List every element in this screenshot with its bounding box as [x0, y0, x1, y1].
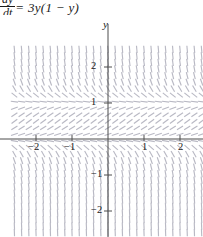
derivative-fraction: dy dt [0, 0, 15, 15]
field-segment [115, 59, 116, 66]
field-segment [28, 52, 29, 59]
field-segment [184, 113, 190, 117]
field-segment [91, 113, 97, 117]
field-segment [170, 93, 176, 97]
field-segment [86, 59, 87, 66]
field-segment [198, 101, 203, 102]
field-segment [100, 157, 102, 164]
field-segment [115, 65, 116, 72]
field-segment [129, 183, 130, 190]
field-segment [187, 196, 188, 203]
field-segment [158, 164, 160, 171]
field-segment [76, 126, 82, 130]
field-segment [14, 59, 15, 66]
field-segment [164, 151, 168, 157]
field-segment [194, 190, 195, 197]
field-segment [201, 177, 202, 184]
field-segment [186, 72, 188, 79]
field-segment [180, 46, 181, 53]
field-segment [21, 170, 22, 177]
field-segment [148, 119, 154, 123]
field-segment [144, 52, 145, 59]
field-segment [187, 59, 188, 66]
field-segment [76, 140, 83, 141]
field-segment [84, 145, 89, 150]
field-segment [41, 86, 45, 92]
field-segment [122, 59, 123, 66]
field-segment [201, 164, 203, 171]
field-segment [19, 145, 24, 150]
field-segment [57, 72, 59, 79]
field-segment [76, 107, 83, 110]
field-segment [41, 151, 45, 157]
field-segment [184, 140, 191, 141]
field-segment [127, 126, 133, 130]
field-segment [133, 133, 140, 135]
field-segment [86, 196, 87, 203]
field-segment [201, 183, 202, 190]
field-segment [149, 86, 153, 92]
field-segment [50, 183, 51, 190]
field-segment [180, 177, 181, 184]
field-segment [18, 101, 25, 102]
field-segment [143, 79, 145, 86]
field-segment [133, 107, 140, 110]
field-segment [79, 65, 80, 72]
field-segment [158, 72, 160, 79]
field-segment [172, 52, 173, 59]
field-segment [177, 113, 183, 117]
field-segment [163, 126, 169, 130]
field-segment [21, 52, 22, 59]
field-segment [148, 93, 154, 97]
field-segment [14, 52, 15, 59]
field-segment [177, 119, 183, 123]
field-segment [172, 190, 173, 197]
field-segment [135, 151, 139, 157]
field-segment [76, 101, 83, 102]
field-segment [129, 65, 130, 72]
field-segment [62, 93, 68, 97]
field-segment [100, 65, 101, 72]
field-segment [43, 183, 44, 190]
field-segment [122, 183, 123, 190]
field-segment [55, 93, 61, 97]
field-segment [20, 157, 22, 164]
field-segment [191, 126, 197, 130]
field-segment [93, 183, 94, 190]
field-segment [162, 107, 169, 110]
field-segment [201, 52, 202, 59]
field-segment [194, 170, 195, 177]
field-segment [171, 86, 175, 92]
field-segment [165, 164, 167, 171]
field-segment [33, 113, 39, 117]
field-segment [43, 65, 44, 72]
field-segment [112, 140, 119, 141]
field-segment [50, 72, 52, 79]
field-segment [40, 145, 45, 150]
field-segment [28, 46, 29, 53]
field-segment [25, 133, 32, 135]
field-segment [49, 151, 53, 157]
field-segment [114, 79, 116, 86]
field-segment [50, 177, 51, 184]
field-segment [172, 164, 174, 171]
field-segment [62, 113, 68, 117]
field-segment [90, 133, 97, 135]
field-segment [14, 46, 15, 53]
x-tick-label-neg1: −1 [64, 141, 75, 152]
field-segment [129, 72, 131, 79]
field-segment [201, 46, 202, 53]
field-segment [35, 65, 36, 72]
field-segment [97, 140, 104, 141]
field-segment [200, 86, 203, 92]
field-segment [194, 183, 195, 190]
field-segment [115, 190, 116, 197]
field-segment [69, 93, 75, 97]
field-segment [172, 157, 174, 164]
field-segment [84, 93, 90, 97]
field-segment [140, 101, 147, 102]
field-segment [184, 101, 191, 102]
field-segment [25, 107, 32, 110]
field-segment [193, 151, 197, 157]
field-segment [55, 119, 61, 123]
